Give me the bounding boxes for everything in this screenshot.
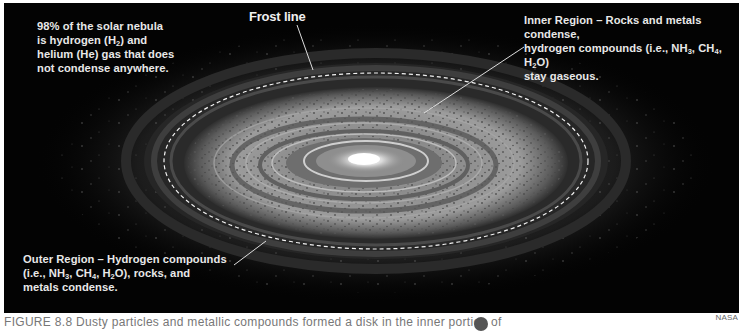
outer-region-label: Outer Region – Hydrogen compounds (i.e.,… [23,252,227,294]
image-credit: NASA [715,313,738,322]
caption-circle-icon [474,317,488,331]
frost-line-label: Frost line [249,9,306,24]
nebula-composition-label: 98% of the solar nebula is hydrogen (H2)… [37,19,174,75]
figure-caption: FIGURE 8.8 Dusty particles and metallic … [4,315,502,329]
inner-region-label: Inner Region – Rocks and metals condense… [524,13,739,83]
nebula-illustration-panel: 98% of the solar nebula is hydrogen (H2)… [4,3,739,313]
